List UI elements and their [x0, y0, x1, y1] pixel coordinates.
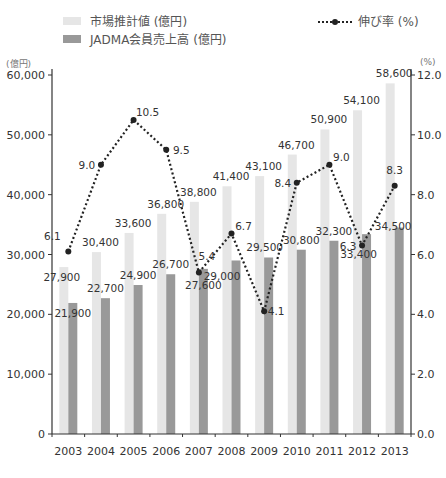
- bar-market-2003: [59, 267, 68, 434]
- x-tick-label: 2007: [185, 445, 213, 458]
- x-tick-label: 2003: [54, 445, 82, 458]
- bar-market-2008: [223, 186, 232, 434]
- right-tick-label: 12.0: [417, 69, 442, 82]
- bar-jadma-2005: [134, 285, 143, 434]
- growth-value-label: 6.3: [340, 240, 357, 252]
- market-value-label: 30,400: [82, 236, 119, 248]
- left-tick-label: 50,000: [7, 129, 46, 142]
- x-tick-label: 2009: [250, 445, 278, 458]
- bar-market-2006: [157, 214, 166, 434]
- x-tick-label: 2008: [218, 445, 246, 458]
- legend-growth-label: 伸び率 (%): [358, 12, 419, 29]
- market-value-label: 41,400: [213, 170, 250, 182]
- jadma-value-label: 30,800: [283, 234, 320, 246]
- growth-point: [163, 147, 169, 153]
- growth-value-label: 6.7: [235, 220, 252, 232]
- growth-value-label: 9.5: [173, 144, 190, 156]
- right-tick-label: 10.0: [417, 129, 442, 142]
- x-tick-label: 2004: [87, 445, 115, 458]
- bar-market-2013: [386, 83, 395, 434]
- legend-market-label: 市場推計値 (億円): [90, 12, 187, 29]
- bar-jadma-2004: [101, 298, 110, 434]
- x-tick-label: 2005: [120, 445, 148, 458]
- left-tick-label: 0: [38, 428, 45, 441]
- legend-item-market: 市場推計値 (億円): [63, 12, 187, 29]
- bar-jadma-2003: [68, 303, 77, 434]
- right-tick-label: 6.0: [417, 249, 435, 262]
- right-tick-label: 4.0: [417, 308, 435, 321]
- growth-point: [392, 183, 398, 189]
- right-tick-label: 2.0: [417, 368, 435, 381]
- growth-point: [65, 249, 71, 255]
- right-tick-label: 8.0: [417, 189, 435, 202]
- market-value-label: 54,100: [343, 94, 380, 106]
- bar-jadma-2012: [362, 234, 371, 434]
- legend-jadma-label: JADMA会員売上高 (億円): [90, 30, 227, 47]
- bar-market-2012: [353, 110, 362, 434]
- growth-point: [196, 269, 202, 275]
- growth-point: [326, 162, 332, 168]
- x-tick-label: 2010: [283, 445, 311, 458]
- growth-value-label: 10.5: [136, 106, 159, 118]
- growth-value-label: 8.3: [386, 164, 403, 176]
- dotted-line-marker-icon: [318, 16, 352, 26]
- growth-point: [261, 308, 267, 314]
- jadma-swatch: [63, 35, 81, 43]
- right-tick-label: 0.0: [417, 428, 435, 441]
- market-value-label: 38,800: [180, 186, 217, 198]
- growth-value-label: 9.0: [333, 151, 350, 163]
- bar-jadma-2008: [232, 260, 241, 434]
- bar-jadma-2011: [329, 241, 338, 434]
- bar-market-2007: [190, 202, 199, 434]
- bar-market-2009: [255, 176, 264, 434]
- jadma-value-label: 34,500: [375, 220, 412, 232]
- bar-jadma-2007: [199, 269, 208, 434]
- left-axis-unit: (億円): [6, 57, 31, 70]
- market-value-label: 50,900: [311, 113, 348, 125]
- jadma-value-label: 26,700: [152, 258, 189, 270]
- bar-market-2004: [92, 252, 101, 434]
- x-tick-label: 2013: [381, 445, 409, 458]
- left-tick-label: 30,000: [7, 249, 46, 262]
- bar-jadma-2010: [297, 250, 306, 434]
- market-swatch: [63, 17, 81, 25]
- bar-jadma-2006: [166, 274, 175, 434]
- legend-item-jadma: JADMA会員売上高 (億円): [63, 30, 227, 47]
- growth-point: [229, 231, 235, 237]
- growth-point: [294, 180, 300, 186]
- jadma-value-label: 32,300: [316, 225, 353, 237]
- market-value-label: 43,100: [245, 160, 282, 172]
- legend-item-growth: 伸び率 (%): [318, 12, 419, 29]
- bar-market-2011: [320, 129, 329, 434]
- market-value-label: 33,600: [115, 217, 152, 229]
- market-value-label: 27,900: [43, 271, 80, 283]
- market-value-label: 46,700: [278, 139, 315, 151]
- left-tick-label: 40,000: [7, 189, 46, 202]
- jadma-value-label: 29,000: [204, 270, 241, 282]
- x-tick-label: 2006: [152, 445, 180, 458]
- growth-value-label: 9.0: [79, 159, 96, 171]
- growth-value-label: 8.4: [274, 177, 291, 189]
- x-tick-label: 2011: [315, 445, 343, 458]
- growth-point: [98, 162, 104, 168]
- growth-value-label: 6.1: [44, 230, 61, 242]
- bar-market-2005: [125, 233, 134, 434]
- jadma-value-label: 24,900: [120, 269, 157, 281]
- x-tick-label: 2012: [348, 445, 376, 458]
- jadma-value-label: 21,900: [54, 307, 91, 319]
- left-tick-label: 10,000: [7, 368, 46, 381]
- market-value-label: 58,600: [376, 67, 413, 79]
- right-axis-unit: (%): [420, 57, 436, 67]
- jadma-value-label: 22,700: [87, 282, 124, 294]
- market-value-label: 36,800: [147, 198, 184, 210]
- left-tick-label: 60,000: [7, 69, 46, 82]
- growth-value-label: 5.4: [199, 250, 216, 262]
- chart-canvas: 010,00020,00030,00040,00050,00060,0000.0…: [0, 0, 446, 478]
- jadma-value-label: 29,500: [246, 241, 283, 253]
- bar-jadma-2013: [395, 228, 404, 434]
- growth-value-label: 4.1: [268, 305, 285, 317]
- left-tick-label: 20,000: [7, 308, 46, 321]
